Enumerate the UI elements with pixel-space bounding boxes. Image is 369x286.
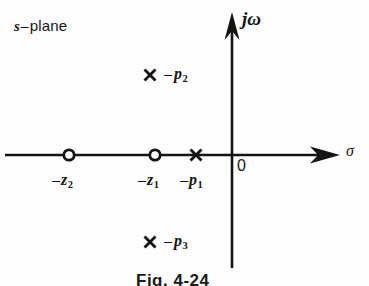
s-plane-figure: s–plane jω σ 0 –z2 –z1 –p1 –p2 –p3 Fig. …: [0, 0, 369, 286]
pole-label-p1-subscript: 1: [197, 179, 203, 190]
imaginary-axis-label: jω: [242, 9, 261, 28]
pole-label-p3-subscript: 3: [182, 240, 188, 251]
pole-label-p2: –p2: [163, 66, 188, 85]
s-plane-symbol: s: [14, 18, 20, 34]
pole-label-p2-minus: –: [163, 65, 174, 82]
origin-label: 0: [237, 158, 246, 174]
s-plane-dash: –: [20, 18, 30, 34]
pole-marker-p2: [145, 70, 156, 81]
pole-label-p3: –p3: [163, 233, 188, 252]
imaginary-axis: [225, 12, 240, 268]
pole-label-p2-subscript: 2: [182, 73, 188, 84]
zero-label-z1-subscript: 1: [153, 179, 159, 190]
pole-label-p1-minus: –: [180, 171, 189, 188]
zero-marker-z1: [150, 150, 160, 160]
pole-label-p3-minus: –: [163, 232, 174, 249]
zero-label-z2-subscript: 2: [67, 179, 73, 190]
zero-label-z2-minus: –: [52, 171, 61, 188]
pole-label-p1-var: p: [189, 171, 197, 188]
pole-label-p1: –p1: [180, 172, 203, 191]
zero-label-z1: –z1: [138, 172, 159, 191]
zero-label-z2: –z2: [52, 172, 73, 191]
pole-label-p2-var: p: [174, 65, 182, 82]
zero-marker-z2: [64, 150, 74, 160]
pole-marker-p3: [145, 237, 156, 248]
pole-label-p3-var: p: [174, 232, 182, 249]
s-plane-word: plane: [30, 17, 68, 34]
s-plane-title: s–plane: [14, 18, 67, 34]
real-axis: [5, 147, 340, 164]
zero-label-z1-minus: –: [138, 171, 147, 188]
figure-caption: Fig. 4-24: [136, 271, 209, 286]
real-axis-label: σ: [346, 143, 354, 159]
